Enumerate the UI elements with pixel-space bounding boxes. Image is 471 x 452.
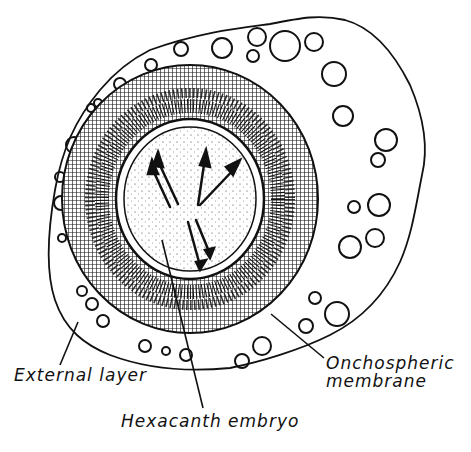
label-onchospheric-line1: Onchospheric: [326, 354, 455, 372]
label-onchospheric-membrane: Onchospheric membrane: [326, 354, 455, 390]
label-onchospheric-line2: membrane: [326, 372, 455, 390]
hexacanth-embryo: [124, 127, 256, 271]
label-hexacanth-embryo: Hexacanth embryo: [121, 412, 299, 430]
label-external-layer: External layer: [14, 366, 147, 384]
leader-external-layer: [60, 322, 78, 365]
